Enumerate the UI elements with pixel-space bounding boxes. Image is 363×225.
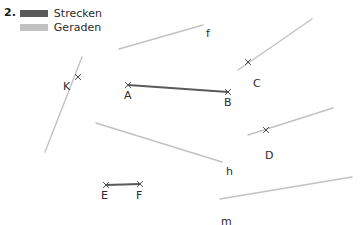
point-label-B: B — [224, 97, 232, 108]
point-label-K: K — [63, 81, 70, 92]
point-label-F: F — [136, 190, 142, 201]
legend-item-strecken: Strecken — [20, 6, 102, 20]
legend-rows: Strecken Geraden — [20, 6, 102, 34]
line-label-m: m — [221, 216, 232, 225]
point-label-D: D — [265, 150, 273, 161]
point-label-A: A — [124, 90, 132, 101]
point-label-C: C — [253, 78, 261, 89]
segment-AB — [128, 85, 228, 92]
line-h — [96, 123, 222, 162]
line-swatch — [20, 24, 48, 31]
line-through-d — [248, 108, 333, 135]
legend-label-strecken: Strecken — [54, 7, 102, 20]
line-m — [220, 177, 352, 199]
lines-layer — [45, 19, 352, 199]
line-label-h: h — [226, 166, 233, 177]
point-label-E: E — [101, 190, 108, 201]
line-label-f: f — [206, 28, 210, 39]
legend: 2. Strecken Geraden — [4, 6, 102, 34]
legend-label-geraden: Geraden — [54, 21, 101, 34]
line-through-k — [45, 57, 82, 152]
exercise-number: 2. — [4, 6, 16, 19]
segment-EF — [106, 184, 140, 185]
segment-swatch — [20, 10, 48, 17]
point-marker-K — [75, 74, 80, 79]
point-markers-layer — [75, 59, 268, 187]
worksheet-page: 2. Strecken Geraden ABEFfCKDhm — [0, 0, 363, 225]
line-through-c — [238, 19, 312, 70]
line-f — [119, 25, 203, 49]
legend-item-geraden: Geraden — [20, 20, 102, 34]
